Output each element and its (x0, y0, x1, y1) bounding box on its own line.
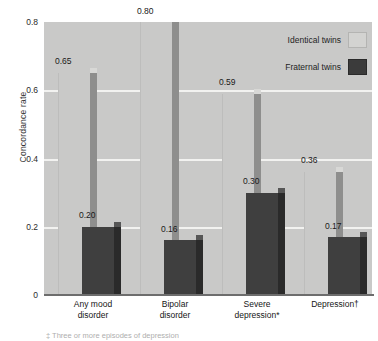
bar-chart-figure: 0.65 0.20 0.80 0.16 (0, 0, 378, 341)
x-label-line1: Bipolar (162, 299, 188, 309)
x-label-bipolar-disorder: Bipolar disorder (131, 299, 219, 320)
x-label-depression: Depression† (291, 299, 378, 310)
footnote: ‡ Three or more episodes of depression (46, 331, 179, 340)
x-label-severe-depression: Severe depression* (213, 299, 301, 320)
x-label-line1: Depression† (311, 299, 359, 309)
x-label-line2: depression* (213, 310, 301, 321)
y-tick-0.4: 0.4 (10, 154, 38, 164)
y-tick-0.2: 0.2 (10, 222, 38, 232)
y-axis-tick-labels: 0.8 0.6 0.4 0.2 0 (0, 0, 378, 341)
y-tick-0.8: 0.8 (10, 17, 38, 27)
x-label-line1: Severe (244, 299, 271, 309)
x-label-line2: disorder (131, 310, 219, 321)
y-tick-0: 0 (10, 290, 38, 300)
y-tick-0.6: 0.6 (10, 85, 38, 95)
x-label-line2: disorder (49, 310, 137, 321)
x-label-line1: Any mood (74, 299, 112, 309)
x-label-any-mood-disorder: Any mood disorder (49, 299, 137, 320)
